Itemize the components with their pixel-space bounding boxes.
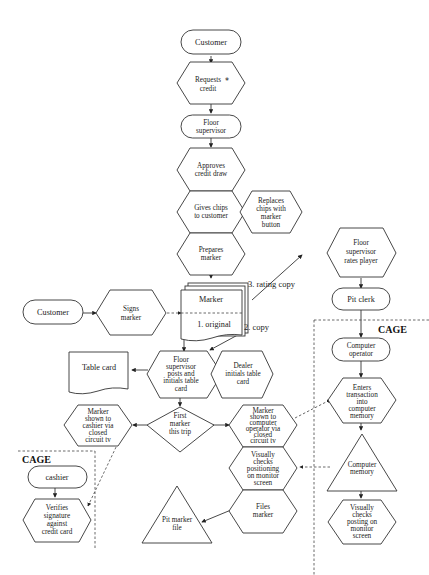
node-visually-checks-positioning: Visually checks positioning on monitor s… [229, 447, 297, 490]
svg-text:supervisor: supervisor [196, 127, 227, 135]
svg-text:card: card [175, 385, 188, 393]
svg-text:screen: screen [353, 532, 372, 540]
svg-text:memory: memory [350, 468, 374, 476]
svg-text:Approves: Approves [197, 162, 225, 170]
svg-text:Computer: Computer [347, 342, 376, 350]
node-customer-left: Customer [23, 300, 83, 324]
node-cashier: cashier [28, 466, 87, 488]
node-approves-credit-draw: Approves credit draw [177, 148, 245, 191]
svg-text:Marker: Marker [199, 295, 223, 304]
svg-text:Gives chips: Gives chips [194, 204, 228, 212]
svg-text:1. original: 1. original [197, 320, 231, 329]
svg-text:Signs: Signs [123, 305, 139, 313]
svg-text:circuit tv: circuit tv [250, 437, 276, 445]
svg-text:Customer: Customer [195, 38, 227, 47]
label-rating-copy: 3. rating copy [248, 279, 296, 289]
svg-text:Floor: Floor [353, 239, 369, 247]
label-copy: 2. copy [244, 322, 270, 332]
node-prepares-marker: Prepares marker [177, 233, 245, 275]
svg-text:chips with: chips with [256, 205, 286, 213]
svg-text:Table card: Table card [82, 363, 116, 372]
svg-text:file: file [172, 524, 182, 532]
svg-text:Prepares: Prepares [199, 246, 224, 254]
svg-text:initials table: initials table [225, 370, 260, 378]
casino-credit-flowchart: CAGE CAGE [0, 0, 429, 575]
svg-text:marker: marker [201, 254, 222, 262]
svg-text:button: button [262, 221, 281, 229]
svg-text:to customer: to customer [194, 212, 228, 220]
svg-text:marker: marker [261, 213, 282, 221]
svg-text:against: against [47, 520, 67, 528]
node-replaces-chips: Replaces chips with marker button [240, 191, 302, 233]
node-enters-transaction: Enters transaction into computer memory [328, 378, 396, 423]
svg-text:Replaces: Replaces [258, 197, 284, 205]
node-signs-marker: Signs marker [96, 290, 166, 335]
svg-text:supervisor: supervisor [346, 248, 377, 256]
node-marker-documents: Marker 1. original [181, 283, 248, 341]
svg-text:First: First [173, 412, 186, 420]
node-pit-marker-file: Pit marker file [142, 486, 212, 543]
node-customer-top: Customer [181, 30, 241, 54]
svg-text:rates player: rates player [344, 257, 378, 265]
svg-text:card: card [237, 378, 250, 386]
svg-text:Dealer: Dealer [233, 362, 253, 370]
svg-text:Pit clerk: Pit clerk [347, 295, 375, 304]
svg-text:circuit tv: circuit tv [85, 436, 111, 444]
svg-text:credit draw: credit draw [195, 170, 228, 178]
svg-text:Pit marker: Pit marker [162, 516, 193, 524]
node-computer-operator: Computer operator [332, 338, 390, 361]
cage-label-left: CAGE [22, 454, 51, 465]
svg-text:this trip: this trip [169, 428, 192, 436]
node-shown-to-cashier: Marker shown to cashier via closed circu… [64, 405, 132, 446]
svg-text:marker: marker [170, 420, 191, 428]
svg-text:Files: Files [256, 503, 270, 511]
node-floor-supervisor: Floor supervisor [181, 115, 241, 138]
node-computer-memory: Computer memory [327, 434, 397, 491]
svg-text:memory: memory [350, 412, 374, 420]
node-files-marker: Files marker [229, 490, 297, 533]
node-table-card: Table card [69, 352, 128, 394]
node-gives-chips: Gives chips to customer [177, 191, 245, 233]
svg-text:signature: signature [44, 512, 70, 520]
svg-text:marker: marker [121, 314, 142, 322]
node-visually-checks-posting: Visually checks posting on monitor scree… [328, 500, 396, 544]
node-floor-rates-player: Floor supervisor rates player [327, 228, 396, 277]
cage-label-right: CAGE [378, 324, 407, 335]
node-first-marker-decision: First marker this trip [147, 407, 214, 452]
svg-text:operator: operator [349, 350, 374, 358]
svg-text:Requests: Requests [195, 76, 221, 84]
svg-text:cashier: cashier [45, 473, 68, 482]
node-shown-to-operator: Marker shown to computer operator via cl… [229, 405, 297, 447]
node-pit-clerk: Pit clerk [332, 288, 390, 310]
asterisk-note-icon: * [225, 77, 229, 86]
node-dealer-initials: Dealer initials table card [211, 351, 273, 398]
svg-text:Floor: Floor [203, 119, 219, 127]
svg-text:credit card: credit card [42, 528, 73, 536]
svg-text:marker: marker [253, 511, 274, 519]
svg-text:screen: screen [254, 479, 273, 487]
node-verifies-signature: Verifies signature against credit card [23, 499, 91, 542]
svg-text:credit: credit [200, 85, 216, 93]
svg-text:Customer: Customer [37, 308, 69, 317]
node-requests-credit: Requests credit * [177, 62, 245, 104]
svg-text:initials table: initials table [163, 377, 198, 385]
svg-text:Verifies: Verifies [46, 504, 69, 512]
